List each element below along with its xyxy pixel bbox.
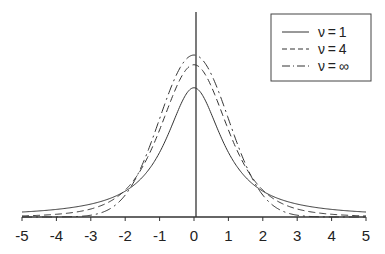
x-tick-label: 0 xyxy=(190,227,198,244)
x-tick-label: -2 xyxy=(119,227,132,244)
x-tick-label: 4 xyxy=(327,227,335,244)
t-distribution-chart: -5-4-3-2-1012345 ν = 1ν = 4ν = ∞ xyxy=(0,0,385,254)
legend-label: ν = 4 xyxy=(318,41,347,57)
legend-label: ν = 1 xyxy=(318,24,347,40)
x-tick-label: 5 xyxy=(362,227,370,244)
curve-solid xyxy=(22,88,366,212)
x-tick-label: -5 xyxy=(15,227,28,244)
x-tick-label: -3 xyxy=(84,227,97,244)
x-tick-label: 2 xyxy=(259,227,267,244)
legend-label: ν = ∞ xyxy=(318,58,349,74)
x-tick-label: -4 xyxy=(50,227,63,244)
legend: ν = 1ν = 4ν = ∞ xyxy=(271,14,371,81)
x-tick-label: -1 xyxy=(153,227,166,244)
x-tick-label: 3 xyxy=(293,227,301,244)
x-tick-label: 1 xyxy=(224,227,232,244)
